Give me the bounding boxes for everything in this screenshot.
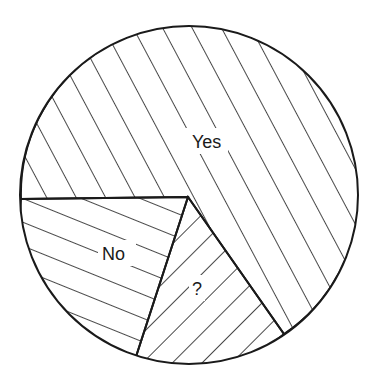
- pie-chart: Yes No ?: [0, 0, 379, 391]
- label-unknown: ?: [192, 279, 202, 299]
- label-yes: Yes: [192, 132, 221, 152]
- label-no: No: [102, 244, 125, 264]
